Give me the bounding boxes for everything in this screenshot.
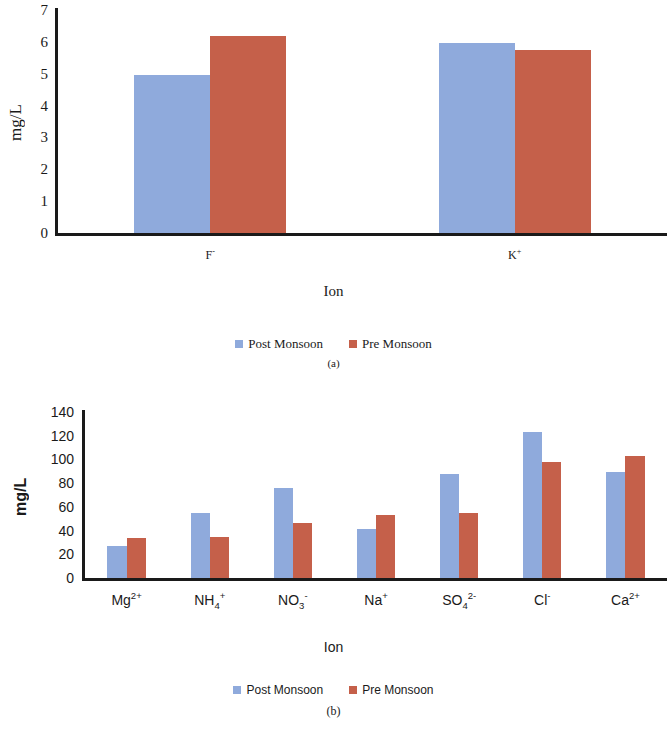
- y-axis-ticks-a: 01234567: [24, 0, 48, 245]
- legend-label: Post Monsoon: [246, 683, 323, 697]
- bar-K+-post-monsoon: [439, 43, 515, 233]
- figure-a: mg/L 01234567 F-K+ Ion Post MonsoonPre M…: [0, 0, 667, 380]
- y-axis-tick: 40: [30, 524, 74, 538]
- bar-Na+-post-monsoon: [357, 529, 376, 578]
- x-axis-tick-Mg2+: Mg2+: [111, 593, 141, 608]
- y-axis-tick: 2: [24, 162, 48, 177]
- bar-Ca2+-post-monsoon: [606, 472, 625, 578]
- legend-b: Post MonsoonPre Monsoon: [0, 682, 667, 698]
- y-axis-tick: 120: [30, 429, 74, 443]
- y-axis-tick: 3: [24, 130, 48, 145]
- y-axis-label-b: mg/L: [12, 462, 32, 532]
- x-axis-line-b: [82, 578, 667, 581]
- bar-NH4+-pre-monsoon: [210, 537, 229, 579]
- bar-NO3--pre-monsoon: [293, 523, 312, 578]
- y-axis-label-a: mg/L: [6, 88, 26, 158]
- y-axis-tick: 0: [24, 226, 48, 241]
- y-axis-tick: 4: [24, 98, 48, 113]
- x-axis-ticks-a: F-K+: [58, 249, 667, 271]
- x-axis-line-a: [55, 233, 667, 236]
- bar-NH4+-post-monsoon: [191, 513, 210, 578]
- bar-Cl--post-monsoon: [523, 432, 542, 578]
- x-axis-tick-Ca2+: Ca2+: [611, 593, 640, 608]
- y-axis-ticks-b: 020406080100120140: [30, 400, 74, 585]
- bar-F--post-monsoon: [134, 75, 210, 233]
- bar-Mg2+-pre-monsoon: [127, 538, 146, 578]
- figure-caption-b: (b): [0, 704, 667, 719]
- legend-swatch-icon: [233, 686, 241, 694]
- x-axis-tick-Na+: Na+: [364, 593, 387, 608]
- y-axis-tick: 5: [24, 66, 48, 81]
- x-axis-tick-SO42-: SO42-: [442, 593, 476, 608]
- figure-caption-a: (a): [0, 357, 667, 369]
- legend-item[interactable]: Post Monsoon: [235, 336, 323, 352]
- legend-label: Post Monsoon: [248, 336, 323, 352]
- legend-item[interactable]: Pre Monsoon: [349, 336, 432, 352]
- x-axis-tick-NH4+: NH4+: [194, 593, 225, 608]
- bar-NO3--post-monsoon: [274, 488, 293, 578]
- x-axis-tick-Cl-: Cl-: [534, 593, 550, 608]
- y-axis-tick: 1: [24, 194, 48, 209]
- bar-Ca2+-pre-monsoon: [625, 456, 644, 578]
- bar-SO42--post-monsoon: [440, 474, 459, 578]
- bar-Cl--pre-monsoon: [542, 462, 561, 578]
- x-axis-title-b: Ion: [0, 639, 667, 655]
- y-axis-tick: 0: [30, 571, 74, 585]
- y-axis-tick: 140: [30, 405, 74, 419]
- y-axis-tick: 100: [30, 452, 74, 466]
- x-axis-tick-F-: F-: [206, 249, 215, 262]
- legend-label: Pre Monsoon: [362, 683, 433, 697]
- x-axis-tick-K+: K+: [508, 249, 521, 262]
- y-axis-tick: 60: [30, 500, 74, 514]
- bar-SO42--pre-monsoon: [459, 513, 478, 578]
- legend-label: Pre Monsoon: [362, 336, 432, 352]
- y-axis-tick: 20: [30, 547, 74, 561]
- figure-b: mg/L 020406080100120140 Mg2+NH4+NO3-Na+S…: [0, 400, 667, 738]
- legend-swatch-icon: [349, 340, 357, 348]
- legend-swatch-icon: [235, 340, 243, 348]
- x-axis-title-a: Ion: [0, 283, 667, 300]
- legend-item[interactable]: Pre Monsoon: [349, 683, 433, 697]
- y-axis-tick: 7: [24, 3, 48, 18]
- legend-item[interactable]: Post Monsoon: [233, 683, 323, 697]
- plot-area-b: [85, 412, 667, 578]
- legend-swatch-icon: [349, 686, 357, 694]
- bar-Na+-pre-monsoon: [376, 515, 395, 578]
- bar-Mg2+-post-monsoon: [107, 546, 126, 578]
- y-axis-tick: 6: [24, 34, 48, 49]
- y-axis-tick: 80: [30, 476, 74, 490]
- x-axis-ticks-b: Mg2+NH4+NO3-Na+SO42-Cl-Ca2+: [85, 593, 667, 619]
- plot-area-a: [58, 10, 667, 233]
- bar-K+-pre-monsoon: [515, 50, 591, 233]
- legend-a: Post MonsoonPre Monsoon: [0, 336, 667, 352]
- bar-F--pre-monsoon: [210, 36, 286, 234]
- x-axis-tick-NO3-: NO3-: [278, 593, 307, 608]
